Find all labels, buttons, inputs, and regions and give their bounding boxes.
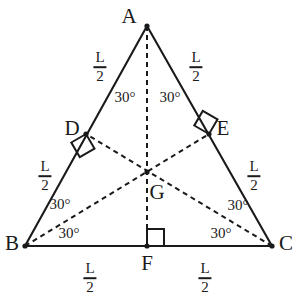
fraction-denominator: 2 <box>190 68 202 84</box>
vertex-dot-c <box>269 243 274 248</box>
vertex-dot-e <box>206 131 211 136</box>
length-DB-label: L2 <box>38 159 51 193</box>
fraction-numerator: L <box>38 159 51 175</box>
angle-GBF-label: 30° <box>59 226 80 241</box>
median-lines <box>25 26 272 246</box>
fraction-denominator: 2 <box>199 279 211 295</box>
vertex-dot-g <box>144 169 149 174</box>
vertex-label-d: D <box>64 118 79 139</box>
vertex-dots <box>22 23 274 248</box>
vertex-label-c: C <box>279 233 293 254</box>
right-angle-marks <box>71 111 217 246</box>
vertex-label-a: A <box>121 6 136 27</box>
length-AE-label: L2 <box>189 50 202 84</box>
fraction-denominator: 2 <box>39 177 51 193</box>
vertex-dot-b <box>22 243 27 248</box>
geometry-figure: ABCDEFG 30°30°30°30°30°30° L2L2L2L2L2L2 <box>0 0 299 303</box>
length-BF-label: L2 <box>83 261 96 295</box>
fraction-denominator: 2 <box>84 279 96 295</box>
vertex-label-b: B <box>5 233 19 254</box>
fraction-numerator: L <box>198 261 211 277</box>
vertex-label-f: F <box>141 253 153 274</box>
angle-FAC-label: 30° <box>160 90 181 105</box>
fraction-denominator: 2 <box>94 68 106 84</box>
vertex-label-e: E <box>217 118 230 139</box>
right-angle-at-F <box>147 229 164 246</box>
fraction-numerator: L <box>93 50 106 66</box>
median-B-E <box>25 134 209 246</box>
angle-DBG-label: 30° <box>50 197 71 212</box>
fraction-numerator: L <box>247 159 260 175</box>
vertex-dot-d <box>83 131 88 136</box>
vertex-dot-f <box>144 243 149 248</box>
fraction-numerator: L <box>83 261 96 277</box>
angle-BAF-label: 30° <box>115 90 136 105</box>
fraction-denominator: 2 <box>248 177 260 193</box>
vertex-label-g: G <box>149 182 164 203</box>
vertex-dot-a <box>144 23 149 28</box>
median-C-D <box>86 134 272 246</box>
length-FC-label: L2 <box>198 261 211 295</box>
length-EC-label: L2 <box>247 159 260 193</box>
length-AD-label: L2 <box>93 50 106 84</box>
triangle-sides <box>25 26 272 246</box>
angle-GCE-label: 30° <box>228 198 249 213</box>
angle-FCG-label: 30° <box>211 226 232 241</box>
fraction-numerator: L <box>189 50 202 66</box>
